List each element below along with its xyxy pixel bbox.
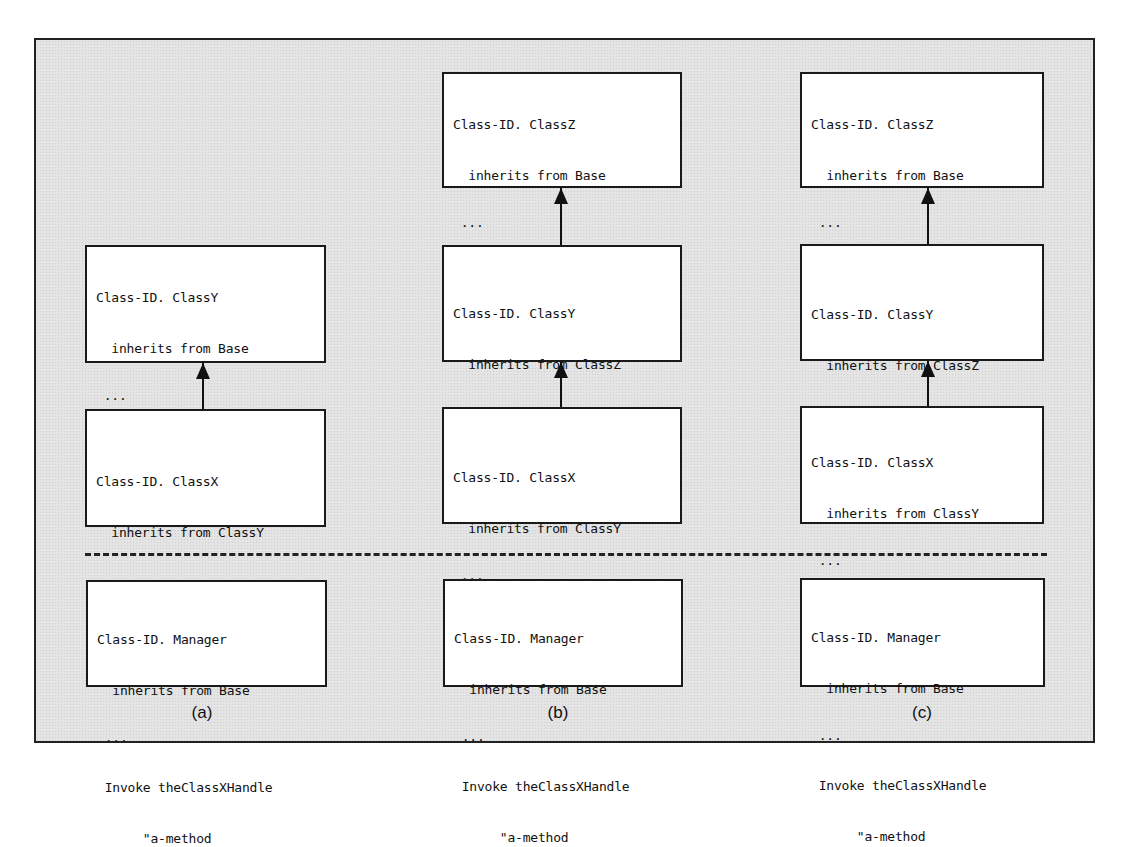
box-line: inherits from Base [453,167,680,184]
box-line: ... [96,391,324,403]
manager-box-a: Class-ID. Manager inherits from Base ...… [86,580,327,687]
class-box-b-classZ: Class-ID. ClassZ inherits from Base ... … [442,72,682,188]
box-line: inherits from ClassY [96,524,324,541]
box-line: Class-ID. ClassZ [811,116,1042,133]
box-line: Class-ID. ClassZ [453,116,680,133]
box-line: ... [453,218,680,230]
box-line: Invoke theClassXHandle [454,778,681,795]
box-line: ... [454,732,681,744]
box-line: Class-ID. ClassX [811,454,1042,471]
box-line: "a-method [454,829,681,846]
box-line: Class-ID. Manager [97,631,325,648]
box-line: inherits from Base [97,682,325,699]
box-line: Class-ID. Manager [454,630,681,647]
arrow-head-icon [554,188,568,204]
column-label-c: (c) [892,703,952,723]
column-label-b: (b) [528,703,588,723]
class-box-a-classY: Class-ID. ClassY inherits from Base ... … [85,245,326,363]
class-box-b-classY: Class-ID. ClassY inherits from ClassZ ..… [442,245,682,362]
box-line: inherits from Base [811,167,1042,184]
box-line: inherits from ClassY [811,505,1042,522]
class-box-c-classY: Class-ID. ClassY inherits from ClassZ ..… [800,244,1044,361]
box-line: ... [811,556,1042,568]
box-line: Class-ID. Manager [811,629,1043,646]
class-box-c-classZ: Class-ID. ClassZ inherits from Base ... … [800,72,1044,188]
box-line: Class-ID. ClassY [811,306,1042,323]
column-label-a: (a) [172,703,232,723]
arrow-head-icon [921,188,935,204]
box-line: Invoke theClassXHandle [811,777,1043,794]
box-line: Class-ID. ClassY [453,305,680,322]
arrow-head-icon [554,362,568,378]
box-line: Invoke theClassXHandle [97,779,325,796]
box-line: inherits from ClassY [453,520,680,537]
box-line: ... [811,731,1043,743]
box-line: inherits from Base [454,681,681,698]
manager-box-c: Class-ID. Manager inherits from Base ...… [800,578,1045,687]
box-line: "a-method [97,830,325,847]
arrow-head-icon [921,361,935,377]
box-line: inherits from Base [811,680,1043,697]
class-box-b-classX: Class-ID. ClassX inherits from ClassY ..… [442,407,682,524]
box-line: Class-ID. ClassY [96,289,324,306]
dashed-divider [85,553,1047,556]
arrow-head-icon [196,363,210,379]
box-line: Class-ID. ClassX [453,469,680,486]
class-box-c-classX: Class-ID. ClassX inherits from ClassY ..… [800,406,1044,524]
class-box-a-classX: Class-ID. ClassX inherits from ClassY ..… [85,409,326,527]
box-line: inherits from Base [96,340,324,357]
box-line: ... [97,733,325,745]
manager-box-b: Class-ID. Manager inherits from Base ...… [443,579,683,687]
box-line: Class-ID. ClassX [96,473,324,490]
box-line: "a-method [811,828,1043,845]
